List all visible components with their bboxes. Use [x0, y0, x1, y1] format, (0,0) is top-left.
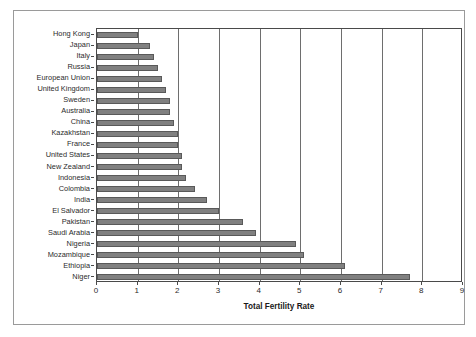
category-label: India: [74, 194, 90, 205]
x-tick-3: [218, 282, 219, 285]
x-tick-9: [462, 282, 463, 285]
bar: [97, 142, 178, 148]
category-label: Mozambique: [48, 249, 90, 260]
x-tick-label-0: 0: [94, 286, 98, 295]
bar: [97, 252, 304, 258]
bar-row: [97, 40, 463, 51]
x-tick-label-5: 5: [297, 286, 301, 295]
x-tick-4: [259, 282, 260, 285]
category-axis: Hong KongJapanItalyRussiaEuropean UnionU…: [14, 28, 94, 282]
bar-row: [97, 173, 463, 184]
category-label: European Union: [37, 72, 90, 83]
category-tick: [91, 166, 94, 167]
bar-row: [97, 206, 463, 217]
category-label: New Zealand: [46, 161, 90, 172]
plot-area: [96, 28, 462, 282]
bar: [97, 65, 158, 71]
category-tick: [91, 254, 94, 255]
category-tick: [91, 34, 94, 35]
x-tick-label-2: 2: [175, 286, 179, 295]
category-label: Australia: [61, 105, 90, 116]
bar-row: [97, 150, 463, 161]
x-tick-0: [96, 282, 97, 285]
category-tick: [91, 199, 94, 200]
bar: [97, 109, 170, 115]
bar: [97, 241, 296, 247]
chart-figure: Hong KongJapanItalyRussiaEuropean UnionU…: [13, 10, 465, 325]
x-tick-label-8: 8: [419, 286, 423, 295]
bar-row: [97, 228, 463, 239]
bar: [97, 153, 182, 159]
category-label: China: [71, 116, 90, 127]
x-tick-7: [381, 282, 382, 285]
bar: [97, 120, 174, 126]
bar-row: [97, 139, 463, 150]
category-tick: [91, 78, 94, 79]
category-label: Saudi Arabia: [48, 227, 90, 238]
category-tick: [91, 265, 94, 266]
x-tick-label-7: 7: [378, 286, 382, 295]
bar-row: [97, 239, 463, 250]
category-tick: [91, 276, 94, 277]
bar-row: [97, 261, 463, 272]
category-tick: [91, 133, 94, 134]
category-label: France: [67, 138, 90, 149]
x-tick-8: [421, 282, 422, 285]
x-tick-label-3: 3: [216, 286, 220, 295]
value-axis: 0123456789: [96, 282, 462, 302]
category-label: Colombia: [59, 183, 90, 194]
bar-row: [97, 217, 463, 228]
bar-row: [97, 29, 463, 40]
bar: [97, 43, 150, 49]
bar-row: [97, 250, 463, 261]
category-label: Hong Kong: [53, 28, 90, 39]
bar-row: [97, 84, 463, 95]
bar: [97, 219, 243, 225]
category-label: Sweden: [63, 94, 90, 105]
bar: [97, 54, 154, 60]
category-label: Russia: [67, 61, 90, 72]
bar-series: [97, 29, 461, 281]
bar-row: [97, 128, 463, 139]
category-tick: [91, 56, 94, 57]
category-label: Nigeria: [67, 238, 90, 249]
bar-row: [97, 195, 463, 206]
bar: [97, 98, 170, 104]
category-tick: [91, 122, 94, 123]
x-tick-label-6: 6: [338, 286, 342, 295]
bar-row: [97, 62, 463, 73]
category-label: Ethiopia: [63, 260, 90, 271]
category-tick: [91, 210, 94, 211]
bar: [97, 263, 345, 269]
bar-row: [97, 162, 463, 173]
bar-row: [97, 117, 463, 128]
bar-row: [97, 51, 463, 62]
x-axis-title: Total Fertility Rate: [96, 302, 462, 311]
category-label: United States: [46, 149, 90, 160]
category-tick: [91, 221, 94, 222]
category-tick: [91, 177, 94, 178]
bar: [97, 164, 182, 170]
category-label: Japan: [70, 39, 90, 50]
bar-row: [97, 184, 463, 195]
bar: [97, 32, 138, 38]
category-tick: [91, 155, 94, 156]
category-label: Niger: [72, 271, 90, 282]
category-tick: [91, 67, 94, 68]
category-tick: [91, 100, 94, 101]
x-tick-5: [299, 282, 300, 285]
category-tick: [91, 188, 94, 189]
category-tick: [91, 111, 94, 112]
bar: [97, 208, 219, 214]
category-tick: [91, 232, 94, 233]
bar: [97, 274, 410, 280]
bar: [97, 186, 195, 192]
bar: [97, 175, 186, 181]
bar: [97, 131, 178, 137]
x-tick-label-1: 1: [134, 286, 138, 295]
category-tick: [91, 89, 94, 90]
x-tick-1: [137, 282, 138, 285]
bar-row: [97, 73, 463, 84]
category-label: Indonesia: [58, 172, 90, 183]
bar: [97, 87, 166, 93]
